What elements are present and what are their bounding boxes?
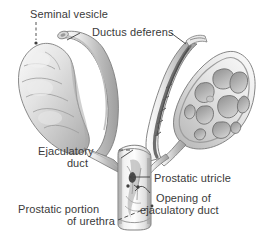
label-prostatic-urethra-line1: Prostatic portion [18, 203, 99, 215]
prostatic-urethra [118, 145, 151, 230]
label-ejaculatory-duct-line1: Ejaculatory [38, 145, 94, 157]
label-opening-line2: ejaculatory duct [140, 204, 219, 216]
anatomical-figure: Seminal vesicle Ductus deferens Ejaculat… [0, 0, 268, 240]
label-opening-line1: Opening of [156, 192, 211, 204]
left-seminal-vesicle [18, 43, 89, 154]
label-ejaculatory-duct-line2: duct [38, 157, 117, 169]
label-ductus-deferens: Ductus deferens [92, 26, 174, 38]
label-seminal-vesicle: Seminal vesicle [30, 8, 108, 20]
label-prostatic-urethra-line2: of urethra [18, 215, 115, 227]
label-prostatic-utricle: Prostatic utricle [154, 172, 231, 184]
